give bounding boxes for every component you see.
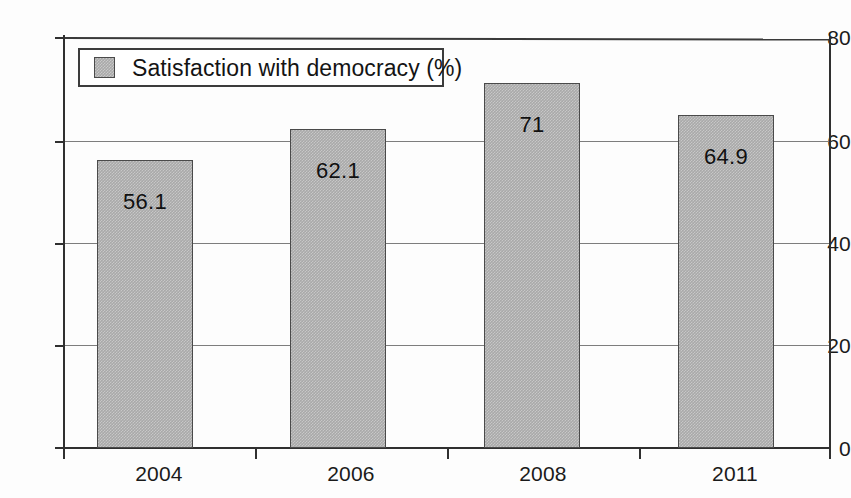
plot-area: 56.1 62.1 71 64.9 bbox=[63, 37, 830, 448]
x-axis-label-2004: 2004 bbox=[63, 462, 255, 485]
bar-chart: 80 60 40 20 0 56.1 62.1 71 64.9 2004 2 bbox=[0, 0, 851, 498]
chart-legend[interactable]: Satisfaction with democracy (%) bbox=[78, 48, 444, 87]
x-axis-label-2011: 2011 bbox=[639, 462, 831, 485]
x-axis-tick-mark-4 bbox=[829, 449, 831, 459]
bar-2011[interactable]: 64.9 bbox=[678, 115, 774, 448]
x-axis-label-2006: 2006 bbox=[255, 462, 447, 485]
x-axis-tick-mark-3 bbox=[639, 449, 641, 459]
legend-color-swatch-icon bbox=[94, 57, 115, 78]
legend-entry-label: Satisfaction with democracy (%) bbox=[132, 56, 462, 80]
bar-2008[interactable]: 71 bbox=[484, 83, 580, 448]
bar-2004[interactable]: 56.1 bbox=[97, 160, 193, 448]
x-axis-tick-mark-1 bbox=[255, 449, 257, 459]
bar-value-label-2006: 62.1 bbox=[291, 160, 385, 182]
x-axis-tick-mark-0 bbox=[63, 449, 65, 459]
x-axis-tick-mark-2 bbox=[447, 449, 449, 459]
bar-value-label-2008: 71 bbox=[485, 114, 579, 136]
bar-2006[interactable]: 62.1 bbox=[290, 129, 386, 448]
bar-value-label-2004: 56.1 bbox=[98, 191, 192, 213]
bar-value-label-2011: 64.9 bbox=[679, 146, 773, 168]
x-axis-label-2008: 2008 bbox=[447, 462, 639, 485]
